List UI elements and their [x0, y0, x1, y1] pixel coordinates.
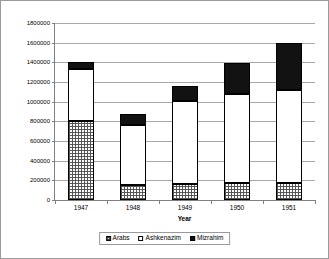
legend-swatch-ashkenazim: [139, 236, 144, 241]
x-tick-mark: [211, 200, 212, 204]
bar-segment-ashkenazim-1949[interactable]: [172, 101, 198, 185]
bar-segment-arabs-1947[interactable]: [68, 121, 94, 200]
bar-stack-1948[interactable]: [120, 23, 146, 200]
y-axis-tick-label: 200000: [30, 177, 50, 183]
x-tick-mark: [315, 200, 316, 204]
y-tick-mark: [52, 180, 55, 181]
y-tick-mark: [52, 23, 55, 24]
y-axis-tick-label: 600000: [30, 138, 50, 144]
legend-entry-mizrahim: Mizrahim: [190, 235, 223, 242]
x-axis-tick-label-1949: 1949: [178, 205, 192, 212]
legend-label-ashkenazim: Ashkenazim: [146, 235, 181, 242]
bar-segment-mizrahim-1947[interactable]: [68, 62, 94, 69]
x-axis-tick-label-1950: 1950: [230, 205, 244, 212]
y-axis-tick-label: 1800000: [27, 20, 50, 26]
legend-swatch-arabs: [106, 236, 111, 241]
y-tick-mark: [52, 82, 55, 83]
x-axis-tick-label-1948: 1948: [126, 205, 140, 212]
x-tick-mark: [107, 200, 108, 204]
y-axis-tick-label: 1200000: [27, 79, 50, 85]
bar-segment-arabs-1949[interactable]: [172, 184, 198, 200]
y-axis-tick-label: 1400000: [27, 59, 50, 65]
bar-stack-1951[interactable]: [276, 23, 302, 200]
y-tick-mark: [52, 102, 55, 103]
y-tick-mark: [52, 62, 55, 63]
bar-segment-ashkenazim-1951[interactable]: [276, 90, 302, 183]
y-tick-mark: [52, 43, 55, 44]
legend-label-arabs: Arabs: [113, 235, 130, 242]
y-tick-mark: [52, 161, 55, 162]
bar-segment-mizrahim-1948[interactable]: [120, 114, 146, 125]
y-tick-mark: [52, 141, 55, 142]
plot-area: 0200000400000600000800000100000012000001…: [54, 23, 315, 201]
legend-entry-ashkenazim: Ashkenazim: [139, 235, 181, 242]
x-tick-mark: [55, 200, 56, 204]
x-axis-title: Year: [54, 216, 315, 223]
bar-segment-mizrahim-1950[interactable]: [224, 63, 250, 93]
y-axis-tick-label: 400000: [30, 158, 50, 164]
legend-swatch-mizrahim: [190, 236, 195, 241]
y-tick-mark: [52, 121, 55, 122]
bar-segment-mizrahim-1951[interactable]: [276, 43, 302, 90]
bar-segment-ashkenazim-1948[interactable]: [120, 125, 146, 185]
bar-stack-1949[interactable]: [172, 23, 198, 200]
x-axis-tick-label-1951: 1951: [282, 205, 296, 212]
x-tick-mark: [159, 200, 160, 204]
legend-entry-arabs: Arabs: [106, 235, 130, 242]
bar-segment-ashkenazim-1950[interactable]: [224, 94, 250, 183]
y-axis-tick-label: 0: [47, 197, 50, 203]
bar-stack-1947[interactable]: [68, 23, 94, 200]
legend-label-mizrahim: Mizrahim: [197, 235, 223, 242]
bar-segment-arabs-1950[interactable]: [224, 183, 250, 200]
x-tick-mark: [263, 200, 264, 204]
chart-legend: Arabs Ashkenazim Mizrahim: [99, 232, 231, 245]
y-axis-tick-label: 1600000: [27, 40, 50, 46]
bar-segment-ashkenazim-1947[interactable]: [68, 69, 94, 121]
bar-segment-arabs-1951[interactable]: [276, 183, 302, 200]
y-axis-tick-label: 800000: [30, 118, 50, 124]
y-axis-tick-label: 1000000: [27, 99, 50, 105]
bar-segment-mizrahim-1949[interactable]: [172, 86, 198, 101]
x-axis-tick-label-1947: 1947: [74, 205, 88, 212]
bar-stack-1950[interactable]: [224, 23, 250, 200]
bar-segment-arabs-1948[interactable]: [120, 185, 146, 200]
stacked-bar-chart: 0200000400000600000800000100000012000001…: [0, 0, 329, 259]
